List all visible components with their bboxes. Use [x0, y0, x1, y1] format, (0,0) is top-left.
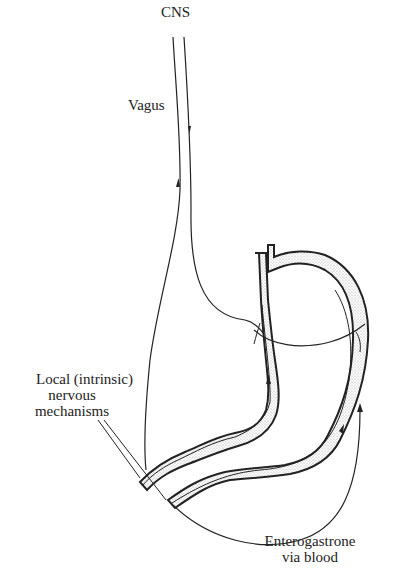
stomach: [140, 245, 368, 508]
gastric-control-diagram: [0, 0, 394, 577]
local-intrinsic-label: Local (intrinsic) nervous mechanisms: [22, 371, 172, 419]
enterogastrone-label: Enterogastrone via blood: [240, 533, 380, 565]
local-label-line1: Local (intrinsic): [22, 371, 147, 387]
cns-label: CNS: [161, 4, 190, 20]
vagus-label: Vagus: [128, 97, 165, 113]
enterogastrone-line1: Enterogastrone: [240, 533, 380, 549]
enterogastrone-line2: via blood: [240, 549, 380, 565]
local-label-line2: nervous: [22, 387, 122, 403]
diagram-canvas: CNS Vagus Local (intrinsic) nervous mech…: [0, 0, 394, 577]
local-label-line3: mechanisms: [22, 403, 122, 419]
arrow-up-icon: [357, 403, 363, 412]
local-mechanism-pointers: [98, 420, 166, 500]
arrow-up-icon: [176, 178, 180, 187]
